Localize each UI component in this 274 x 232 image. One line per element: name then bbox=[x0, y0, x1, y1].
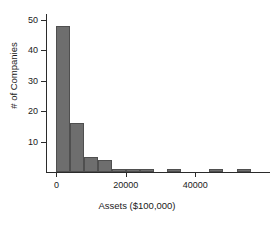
y-tick-mark bbox=[41, 20, 47, 21]
y-tick-mark bbox=[41, 81, 47, 82]
x-tick-label: 40000 bbox=[183, 180, 208, 190]
x-tick-mark bbox=[126, 172, 127, 177]
y-axis-line bbox=[46, 14, 47, 173]
histogram-figure: 1020304050 02000040000 # of Companies As… bbox=[0, 0, 274, 232]
histogram-bar bbox=[98, 160, 112, 172]
histogram-bar bbox=[70, 123, 84, 172]
histogram-bar bbox=[84, 157, 98, 172]
y-tick-mark bbox=[41, 50, 47, 51]
x-axis-title: Assets ($100,000) bbox=[0, 200, 274, 211]
y-axis-title: # of Companies bbox=[8, 26, 19, 126]
y-tick-label: 10 bbox=[0, 138, 38, 147]
y-tick-mark bbox=[41, 111, 47, 112]
x-tick-mark bbox=[56, 172, 57, 177]
y-tick-label: 30 bbox=[0, 77, 38, 86]
histogram-bar bbox=[56, 26, 70, 172]
y-tick-label: 40 bbox=[0, 46, 38, 55]
x-tick-mark bbox=[195, 172, 196, 177]
bars-layer bbox=[46, 14, 268, 172]
y-tick-mark bbox=[41, 142, 47, 143]
x-tick-label: 0 bbox=[54, 180, 59, 190]
plot-area bbox=[46, 14, 268, 172]
y-tick-label: 50 bbox=[0, 16, 38, 25]
x-axis-line bbox=[46, 172, 270, 173]
x-tick-label: 20000 bbox=[113, 180, 138, 190]
y-tick-label: 20 bbox=[0, 107, 38, 116]
